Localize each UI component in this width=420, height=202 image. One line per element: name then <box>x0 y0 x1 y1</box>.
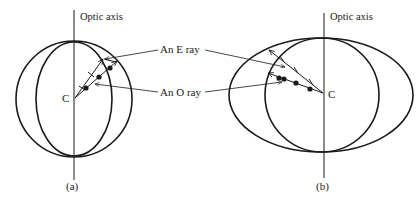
center-label-b: C <box>328 88 335 100</box>
o-dot-a2 <box>96 74 101 79</box>
caption-b: (b) <box>316 180 329 193</box>
e-ray-b <box>269 50 323 93</box>
o-wavefront-sphere-b <box>265 38 379 152</box>
optic-axis-label-b: Optic axis <box>330 11 373 22</box>
e-wavefront-ellipsoid-b <box>229 38 413 152</box>
panel-b: Optic axis C (b) <box>229 11 413 193</box>
wavefront-connector-a <box>104 59 116 62</box>
o-dot-a3 <box>107 65 112 70</box>
callouts: An E ray An O ray <box>95 43 285 98</box>
o-dot-b2 <box>293 80 298 85</box>
birefringence-diagram: Optic axis C (a) An E ray An O ray Optic… <box>0 0 420 202</box>
caption-a: (a) <box>66 180 79 193</box>
e-ray-label: An E ray <box>160 43 200 55</box>
e-ray-leader-left <box>105 50 158 59</box>
o-ray-leader-right <box>205 82 282 92</box>
o-dot-b1 <box>307 86 312 91</box>
center-label-a: C <box>62 92 69 104</box>
o-ray-label: An O ray <box>160 86 201 98</box>
panel-a: Optic axis C (a) <box>16 10 132 193</box>
o-ray-leader-left <box>95 84 158 92</box>
o-dot-b3 <box>281 76 286 81</box>
o-dot-a1 <box>83 85 88 90</box>
optic-axis-label-a: Optic axis <box>80 11 123 22</box>
o-dot-b4 <box>276 75 281 80</box>
